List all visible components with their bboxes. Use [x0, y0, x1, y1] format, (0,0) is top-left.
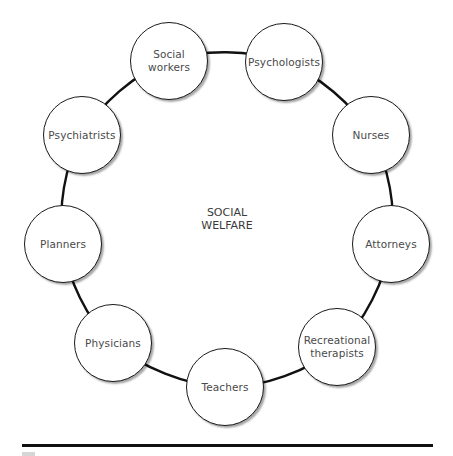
node-social-workers: Social workers	[130, 22, 208, 100]
node-teachers: Teachers	[186, 348, 264, 426]
node-label: Physicians	[85, 337, 141, 350]
node-label: Social workers	[148, 48, 190, 74]
corner-mark	[22, 452, 35, 456]
node-label: Nurses	[353, 129, 390, 142]
node-attorneys: Attorneys	[352, 205, 430, 283]
center-label: SOCIAL WELFARE	[185, 206, 269, 232]
node-label: Recreational therapists	[304, 334, 371, 360]
node-label: Psychologists	[248, 56, 320, 69]
node-nurses: Nurses	[332, 96, 410, 174]
node-label: Planners	[40, 238, 86, 251]
node-recreational-therapists: Recreational therapists	[298, 308, 376, 386]
diagram-canvas: SOCIAL WELFARE Social workers Psychologi…	[0, 0, 453, 456]
node-label: Teachers	[202, 381, 249, 394]
bottom-rule-divider	[22, 444, 433, 447]
node-psychologists: Psychologists	[245, 23, 323, 101]
node-psychiatrists: Psychiatrists	[43, 96, 121, 174]
node-label: Psychiatrists	[48, 129, 115, 142]
node-physicians: Physicians	[74, 304, 152, 382]
node-label: Attorneys	[365, 238, 417, 251]
node-planners: Planners	[24, 205, 102, 283]
